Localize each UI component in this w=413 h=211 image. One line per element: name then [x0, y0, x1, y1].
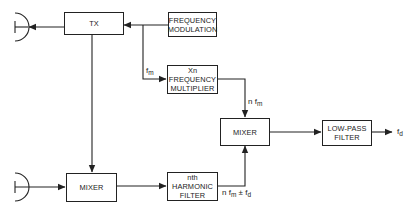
nfm-main: n f: [248, 97, 257, 106]
nfm-sub: m: [257, 100, 262, 107]
harmonic-line-2: HARMONIC: [172, 182, 213, 191]
fd-sub: d: [399, 130, 403, 137]
fm-sub: m: [148, 69, 153, 76]
frequency-multiplier-block: Xn FREQUENCY MULTIPLIER: [167, 65, 218, 94]
fd-output-label: fd: [397, 127, 403, 137]
multiplier-line-2: FREQUENCY: [169, 75, 216, 84]
low-pass-filter-block: LOW-PASS FILTER: [322, 120, 372, 146]
harmonic-filter-block: nth HARMONIC FILTER: [167, 172, 218, 201]
nfm-fd-sub: m: [231, 191, 236, 198]
transmit-antenna-icon: [15, 13, 29, 41]
frequency-modulation-block: FREQUENCY MODULATION: [168, 12, 217, 37]
nfm-fd-tail-sub: d: [247, 191, 251, 198]
nfm-fd-main: n f: [222, 188, 231, 197]
low-pass-line-1: LOW-PASS: [327, 124, 366, 133]
harmonic-line-1: nth: [187, 173, 198, 182]
mixer-top-block: MIXER: [220, 118, 270, 146]
nfm-label: n fm: [248, 97, 262, 107]
multiplier-line-3: MULTIPLIER: [171, 84, 215, 93]
nfm-plus-minus-fd-label: n fm ± fd: [222, 188, 251, 198]
freq-mod-line-2: MODULATION: [168, 25, 218, 34]
tx-label: TX: [89, 19, 99, 28]
low-pass-line-2: FILTER: [334, 133, 360, 142]
receive-antenna-icon: [15, 173, 65, 201]
tx-block: TX: [64, 12, 124, 35]
mixer-top-label: MIXER: [233, 128, 257, 137]
mixer-bottom-block: MIXER: [66, 173, 117, 202]
multiplier-line-1: Xn: [188, 66, 197, 75]
fm-label: fm: [146, 66, 154, 76]
harmonic-line-3: FILTER: [180, 191, 206, 200]
freq-mod-line-1: FREQUENCY: [169, 16, 216, 25]
mixer-bottom-label: MIXER: [80, 183, 104, 192]
